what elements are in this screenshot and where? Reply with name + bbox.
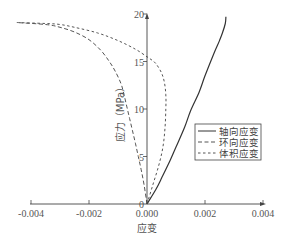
y-tick-label: 5 [139, 152, 144, 163]
y-tick-label: 0 [139, 199, 144, 210]
y-axis-title: 应力（MPa） [114, 82, 126, 142]
y-axis: 05101520 应力（MPa） [114, 9, 149, 210]
stress-strain-chart: -0.004-0.0020.0000.0020.004 应变 05101520 … [0, 0, 292, 241]
legend-label-hoop: 环向应变 [219, 137, 259, 148]
x-tick-label: -0.002 [76, 208, 102, 219]
x-tick-label: -0.004 [18, 208, 44, 219]
x-tick-label: 0.002 [194, 208, 217, 219]
hoop-strain-curve [17, 23, 148, 205]
legend: 轴向应变 环向应变 体积应变 [195, 124, 261, 160]
x-tick-label: 0.004 [252, 208, 275, 219]
legend-label-volumetric: 体积应变 [219, 148, 259, 159]
x-axis: -0.004-0.0020.0000.0020.004 应变 [18, 200, 274, 234]
y-tick-label: 10 [134, 104, 144, 115]
legend-label-axial: 轴向应变 [219, 126, 259, 137]
y-tick-label: 15 [134, 57, 144, 68]
x-axis-title: 应变 [137, 222, 157, 234]
y-tick-label: 20 [134, 9, 144, 20]
axial-strain-curve [147, 17, 226, 204]
